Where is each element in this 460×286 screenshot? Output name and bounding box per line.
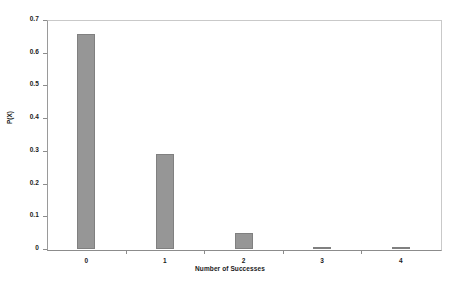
y-axis-tick-mark: [43, 85, 47, 86]
y-axis-tick-label: 0.2: [30, 179, 39, 186]
x-axis-tick-mark: [126, 250, 127, 254]
x-axis-tick-label: 0: [84, 257, 88, 264]
y-axis-tick-label: 0.5: [30, 80, 39, 87]
bar-chart: 00.10.20.30.40.50.60.7 P(X) 01234 Number…: [0, 0, 460, 286]
bars-layer: [47, 20, 440, 249]
x-axis-tick-label: 3: [320, 257, 324, 264]
bar: [77, 34, 95, 249]
x-axis-title: Number of Successes: [0, 265, 460, 272]
y-axis-tick-mark: [43, 151, 47, 152]
bar: [392, 247, 410, 249]
x-axis-tick-mark: [361, 250, 362, 254]
y-axis-tick-label: 0.4: [30, 113, 39, 120]
y-axis: 00.10.20.30.40.50.60.7: [0, 20, 47, 249]
y-axis-title: P(X): [6, 111, 13, 124]
y-axis-tick-label: 0.7: [30, 15, 39, 22]
y-axis-tick-mark: [43, 184, 47, 185]
x-axis-tick-label: 2: [242, 257, 246, 264]
y-axis-tick-mark: [43, 53, 47, 54]
y-axis-tick-label: 0: [35, 244, 39, 251]
y-axis-tick-label: 0.1: [30, 211, 39, 218]
y-axis-tick-mark: [43, 118, 47, 119]
y-axis-tick-label: 0.3: [30, 146, 39, 153]
x-axis-tick-mark: [204, 250, 205, 254]
bar: [235, 233, 253, 249]
x-axis-tick-mark: [283, 250, 284, 254]
bar: [156, 154, 174, 249]
bar: [313, 247, 331, 249]
y-axis-tick-mark: [43, 20, 47, 21]
x-axis-tick-label: 4: [399, 257, 403, 264]
y-axis-tick-mark: [43, 216, 47, 217]
y-axis-tick-label: 0.6: [30, 48, 39, 55]
x-axis-tick-label: 1: [163, 257, 167, 264]
